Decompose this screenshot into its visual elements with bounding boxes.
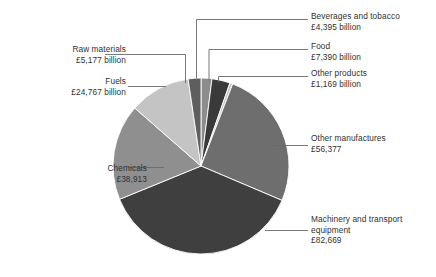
pie-label-beverages-value: £4,395 billion: [311, 22, 400, 33]
pie-label-other-products-value: £1,169 billion: [311, 79, 367, 90]
pie-label-raw-materials-value: £5,177 billion: [72, 55, 126, 66]
pie-label-machinery-name-2: equipment: [311, 225, 402, 236]
pie-label-fuels: Fuels £24,767 billion: [71, 76, 126, 97]
pie-label-other-products-name: Other products: [311, 68, 367, 79]
leader-line-otherproducts: [219, 77, 309, 83]
pie-chart: Beverages and tobacco £4,395 billion Foo…: [0, 0, 436, 277]
pie-label-machinery-name-1: Machinery and transport: [311, 214, 402, 225]
pie-label-fuels-value: £24,767 billion: [71, 87, 126, 98]
pie-label-other-manufactures-value: £56,377: [311, 144, 386, 155]
pie-label-fuels-name: Fuels: [71, 76, 126, 87]
leader-line-beverages: [197, 20, 309, 79]
leader-line-food: [209, 50, 308, 81]
pie-label-other-manufactures-name: Other manufactures: [311, 133, 386, 144]
pie-label-other-products: Other products £1,169 billion: [311, 68, 367, 89]
pie-label-chemicals: Chemicals £38,913: [108, 163, 147, 184]
pie-label-raw-materials-name: Raw materials: [72, 44, 126, 55]
pie-label-chemicals-value: £38,913: [108, 174, 147, 185]
pie-label-beverages-name: Beverages and tobacco: [311, 11, 400, 22]
pie-label-beverages-and-tobacco: Beverages and tobacco £4,395 billion: [311, 11, 400, 32]
pie-label-raw-materials: Raw materials £5,177 billion: [72, 44, 126, 65]
pie-label-machinery-and-transport-equipment: Machinery and transport equipment £82,66…: [311, 214, 402, 246]
pie-label-machinery-value: £82,669: [311, 235, 402, 246]
pie-label-other-manufactures: Other manufactures £56,377: [311, 133, 386, 154]
pie-label-food: Food £7,390 billion: [311, 41, 361, 62]
pie-label-food-value: £7,390 billion: [311, 52, 361, 63]
pie-label-chemicals-name: Chemicals: [108, 163, 147, 174]
pie-label-food-name: Food: [311, 41, 361, 52]
